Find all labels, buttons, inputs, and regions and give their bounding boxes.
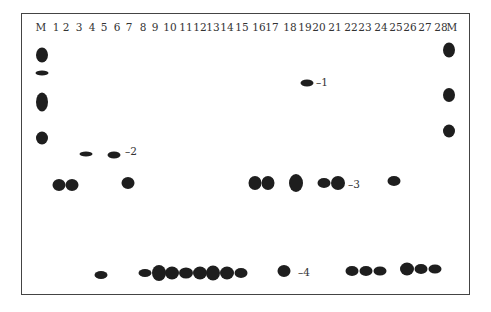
- spot-lane-27: [415, 264, 428, 274]
- band-label: –1: [316, 76, 328, 88]
- spot-lane-M-left: [36, 132, 48, 145]
- spot-lane-4: [80, 152, 93, 157]
- spot-lane-15: [235, 268, 248, 278]
- lane-label: 24: [374, 21, 387, 33]
- lane-label: 22: [344, 21, 357, 33]
- lane-label: 5: [101, 21, 108, 33]
- spot-lane-7: [122, 177, 135, 189]
- lane-label: 27: [418, 21, 431, 33]
- spot-lane-1: [53, 179, 66, 191]
- spot-lane-23: [360, 266, 373, 276]
- lane-label: 14: [220, 21, 233, 33]
- spot-lane-18: [278, 265, 291, 277]
- lane-label: 21: [328, 21, 341, 33]
- spot-lane-M-left: [36, 71, 49, 76]
- lane-label: M: [447, 21, 458, 33]
- lane-label: 7: [126, 21, 133, 33]
- spot-lane-19: [301, 80, 314, 87]
- lane-label: 13: [206, 21, 219, 33]
- lane-label: 12: [193, 21, 206, 33]
- lane-label: 19: [298, 21, 311, 33]
- spot-lane-21: [331, 176, 345, 190]
- spot-lane-M-right: [443, 88, 455, 102]
- lane-label: 9: [152, 21, 159, 33]
- spot-lane-5: [95, 271, 108, 279]
- spot-lane-14: [220, 267, 234, 280]
- lane-label: 4: [89, 21, 96, 33]
- spot-lane-13: [206, 266, 220, 281]
- spot-lane-9: [152, 265, 166, 281]
- lane-label: 10: [163, 21, 176, 33]
- spot-lane-10: [165, 267, 179, 280]
- spot-lane-M-left: [36, 93, 48, 112]
- lane-label: 2: [63, 21, 70, 33]
- spot-lane-17: [262, 176, 275, 190]
- lane-label: M: [36, 21, 47, 33]
- lane-label: 1: [53, 21, 60, 33]
- spot-lane-28: [429, 265, 442, 274]
- lane-label: 23: [358, 21, 371, 33]
- band-label: –3: [348, 178, 360, 190]
- spot-lane-20: [318, 178, 331, 188]
- lane-label: 8: [140, 21, 147, 33]
- spot-lane-2: [66, 179, 79, 191]
- lane-label: 17: [265, 21, 278, 33]
- spot-lane-24: [374, 267, 387, 276]
- lane-label: 11: [179, 21, 192, 33]
- lane-label: 25: [389, 21, 402, 33]
- lane-label: 16: [252, 21, 265, 33]
- lane-label: 6: [114, 21, 121, 33]
- spot-lane-M-right: [443, 125, 455, 138]
- lane-label: 26: [403, 21, 416, 33]
- spot-lane-18: [289, 174, 303, 192]
- spot-lane-25: [388, 176, 401, 186]
- band-label: –2: [125, 145, 137, 157]
- spot-lane-6: [108, 152, 121, 159]
- spot-lane-22: [346, 266, 359, 276]
- lane-label: 3: [76, 21, 83, 33]
- band-label: –4: [298, 266, 310, 278]
- lane-label: 20: [312, 21, 325, 33]
- spot-lane-8: [139, 269, 152, 277]
- spot-lane-16: [249, 176, 262, 190]
- spot-lane-26: [400, 263, 414, 276]
- lane-label: 15: [235, 21, 248, 33]
- spot-lane-12: [193, 267, 207, 280]
- lane-label: 18: [283, 21, 296, 33]
- spot-lane-M-left: [36, 48, 48, 63]
- spot-lane-11: [179, 268, 193, 279]
- spot-lane-M-right: [443, 43, 455, 58]
